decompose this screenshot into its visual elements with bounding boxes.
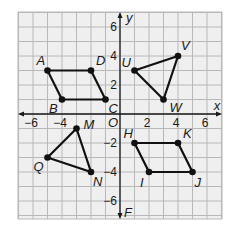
point-I [146, 169, 153, 176]
point-label-I: I [140, 175, 144, 190]
x-tick-label: 2 [144, 116, 151, 130]
y-tick-label: 2 [110, 78, 117, 92]
y-axis-bottom-label: F [124, 205, 133, 220]
point-label-H: H [124, 126, 134, 141]
point-label-A: A [36, 53, 46, 68]
point-label-M: M [84, 117, 95, 132]
point-label-V: V [181, 38, 191, 53]
point-U [131, 67, 138, 74]
point-label-U: U [122, 55, 132, 70]
point-label-N: N [93, 174, 103, 189]
x-tick-label: −6 [24, 116, 38, 130]
point-label-W: W [170, 100, 184, 115]
point-label-J: J [194, 175, 202, 190]
x-tick-label: −4 [53, 116, 67, 130]
y-tick-label: −2 [103, 136, 117, 150]
x-tick-label: 4 [173, 116, 180, 130]
point-M [73, 125, 80, 132]
y-tick-label: −6 [103, 194, 117, 208]
point-label-K: K [183, 126, 193, 141]
x-axis-label: x [213, 98, 221, 113]
point-D [88, 67, 95, 74]
y-tick-label: −4 [103, 165, 117, 179]
point-K [175, 140, 182, 147]
coordinate-plane: xyFO−6−4246642−2−4−6 ADCBUVWMNQHKJI [0, 0, 238, 233]
x-tick-label: 6 [202, 116, 209, 130]
y-tick-label: 4 [110, 49, 117, 63]
point-W [160, 96, 167, 103]
point-Q [44, 154, 51, 161]
y-tick-label: 6 [110, 20, 117, 34]
point-label-Q: Q [34, 159, 44, 174]
point-B [59, 96, 66, 103]
point-V [175, 53, 182, 60]
point-label-D: D [96, 53, 105, 68]
point-A [44, 67, 51, 74]
point-label-C: C [109, 101, 119, 116]
origin-label: O [108, 115, 118, 130]
point-label-B: B [49, 101, 58, 116]
